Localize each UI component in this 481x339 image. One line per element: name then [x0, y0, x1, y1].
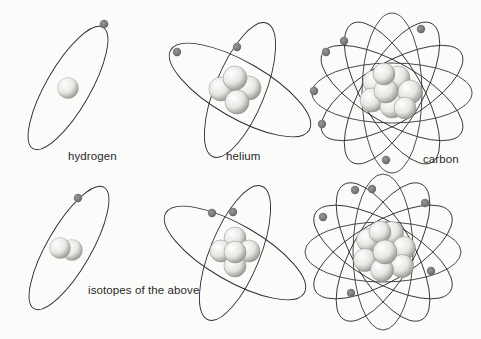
- electron: [340, 37, 348, 45]
- electron: [421, 199, 429, 207]
- electron: [310, 87, 318, 95]
- electron: [173, 48, 181, 56]
- atom-diagram: hydrogen helium carbon isotopes of the a…: [0, 0, 481, 339]
- electron: [347, 289, 355, 297]
- electron: [382, 156, 390, 164]
- label-isotopes: isotopes of the above: [88, 284, 199, 296]
- carbon-isotope-atom: [300, 169, 465, 334]
- proton: [58, 78, 79, 99]
- hydrogen-isotope-atom: [15, 176, 123, 319]
- label-carbon: carbon: [423, 153, 459, 165]
- electron: [368, 185, 376, 193]
- label-hydrogen: hydrogen: [68, 150, 117, 162]
- electron: [233, 43, 241, 51]
- electron: [208, 209, 216, 217]
- electron: [318, 120, 326, 128]
- carbon-atom: [308, 9, 477, 178]
- electron: [229, 208, 237, 216]
- electron: [322, 48, 330, 56]
- electron: [427, 267, 435, 275]
- electron: [319, 213, 327, 221]
- electron: [417, 25, 425, 33]
- label-helium: helium: [226, 150, 260, 162]
- electron: [351, 186, 359, 194]
- hydrogen-atom: [14, 16, 122, 159]
- electron: [100, 20, 109, 29]
- helium-isotope-atom: [152, 177, 319, 329]
- helium-atom: [157, 14, 324, 166]
- electron: [74, 194, 82, 202]
